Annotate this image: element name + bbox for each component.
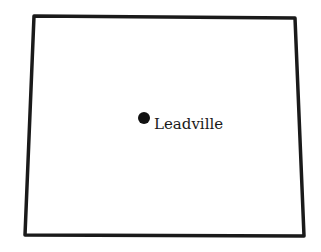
city-marker-icon [138,112,150,124]
city-label: Leadville [154,115,223,133]
map-canvas: Leadville [0,0,321,252]
